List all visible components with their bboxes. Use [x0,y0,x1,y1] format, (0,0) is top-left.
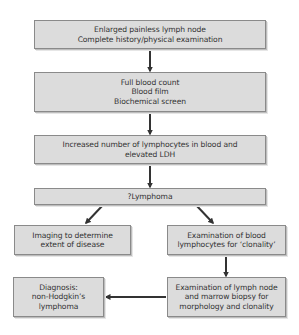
node-initial-tests: Full blood count Blood film Biochemical … [34,72,266,112]
node-findings: Increased number of lymphocytes in blood… [34,135,266,164]
arrow-lymphoma-to-clonality [196,205,213,223]
node-text: Enlarged painless lymph node [94,25,206,34]
node-text: Examination of blood [187,231,266,240]
node-text: Complete history/physical examination [78,35,223,44]
node-text: elevated LDH [125,150,175,159]
node-text: Examination of lymph node [175,283,277,292]
node-text: extent of disease [41,240,105,249]
node-text: Diagnosis: [39,283,77,292]
node-text: lymphocytes for ‘clonality’ [177,240,275,249]
node-text: non-Hodgkin’s [32,292,85,301]
node-imaging: Imaging to determine extent of disease [14,225,131,255]
node-clonality: Examination of blood lymphocytes for ‘cl… [167,225,286,255]
node-text: and marrow biopsy for [185,292,269,301]
node-text: morphology and clonality [179,302,273,311]
node-text: Increased number of lymphocytes in blood… [63,140,238,149]
node-presentation: Enlarged painless lymph node Complete hi… [34,20,266,49]
node-text: Blood film [131,87,168,96]
node-text: Imaging to determine [32,231,112,240]
node-text: lymphoma [39,302,79,311]
node-suspicion: ?Lymphoma [34,188,266,205]
node-text: Full blood count [121,78,180,87]
node-diagnosis: Diagnosis: non-Hodgkin’s lymphoma [13,277,104,317]
node-text: Biochemical screen [114,97,186,106]
node-text: ?Lymphoma [128,192,173,201]
node-biopsy: Examination of lymph node and marrow bio… [167,277,286,317]
arrow-lymphoma-to-imaging [86,205,103,223]
